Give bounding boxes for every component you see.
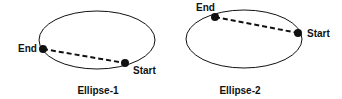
ellipse-1-start-label: Start [133,65,156,76]
ellipse-2-start-dot [294,29,302,37]
ellipse-2 [186,10,302,68]
ellipse-2-end-label: End [196,2,215,13]
ellipse-1-end-label: End [18,43,37,54]
ellipse-1 [39,11,155,69]
ellipse-2-start-label: Start [307,28,330,39]
ellipse-1-end-dot [39,45,47,53]
ellipse-1-start-dot [121,59,129,67]
ellipse-2-group: End Start Ellipse-2 [186,2,330,96]
ellipse-2-chord [215,17,298,33]
ellipse-1-caption: Ellipse-1 [77,85,119,96]
diagram-canvas: End Start Ellipse-1 End Start Ellipse-2 [0,0,342,99]
ellipse-2-end-dot [211,13,219,21]
ellipse-1-group: End Start Ellipse-1 [18,11,156,96]
ellipse-1-chord [43,49,125,63]
ellipse-2-caption: Ellipse-2 [219,85,261,96]
